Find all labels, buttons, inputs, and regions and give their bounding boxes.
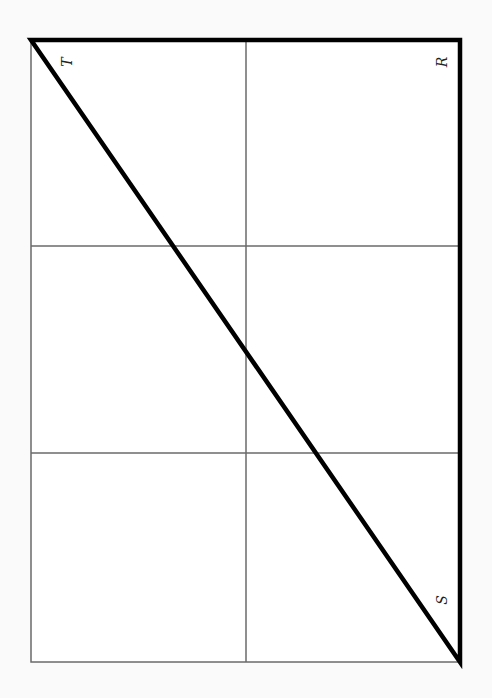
triangle-diagram: T R S (0, 0, 492, 698)
vertex-label-r: R (434, 56, 450, 68)
vertex-label-s: S (434, 595, 450, 605)
